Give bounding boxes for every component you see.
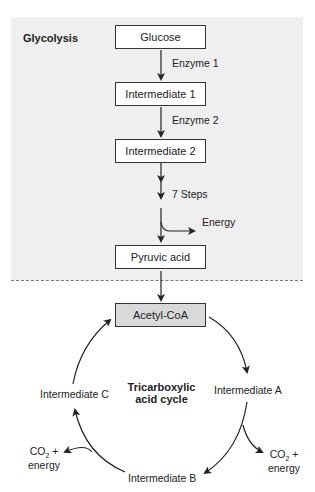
- arrow-co2-left: [65, 448, 92, 453]
- arrow-a-to-b: [205, 402, 247, 473]
- arrow-co2-right: [243, 425, 262, 452]
- arrows-layer: [0, 0, 315, 492]
- arrow-b-to-c: [75, 410, 125, 472]
- arrow-acetyl-to-a: [209, 317, 247, 372]
- arrow-c-to-acetyl: [73, 320, 110, 384]
- arrow-energy-branch: [161, 222, 194, 231]
